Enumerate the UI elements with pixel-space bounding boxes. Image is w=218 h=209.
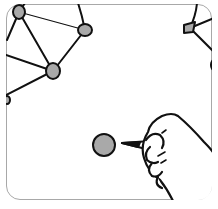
node-icon bbox=[93, 134, 115, 156]
network-drawing-illustration bbox=[0, 0, 218, 209]
node-icon bbox=[211, 60, 217, 70]
node-icon bbox=[78, 24, 92, 36]
node-icon bbox=[13, 5, 25, 19]
node-icon bbox=[46, 63, 60, 79]
node-icon bbox=[184, 22, 195, 33]
hand-with-pen-icon bbox=[122, 114, 214, 205]
network-edges bbox=[6, 3, 214, 95]
node-icon bbox=[4, 96, 10, 104]
